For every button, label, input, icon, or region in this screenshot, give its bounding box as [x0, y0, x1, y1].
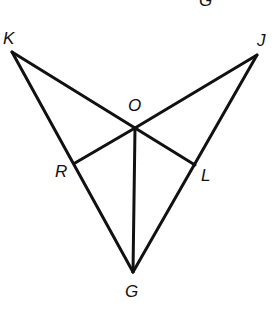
geometry-diagram: G K J O R L G [0, 0, 276, 310]
label-K: K [3, 29, 15, 48]
label-J: J [256, 31, 266, 50]
label-G: G [125, 282, 138, 301]
label-L: L [201, 166, 210, 185]
segment-KG [12, 52, 133, 272]
segment-OG [133, 128, 135, 272]
label-O: O [128, 96, 141, 115]
partial-top-label: G [199, 0, 212, 10]
segment-JO [135, 55, 257, 128]
segment-KO [12, 52, 135, 128]
segment-OL [135, 128, 195, 165]
segment-OR [75, 128, 135, 163]
label-R: R [55, 162, 67, 181]
